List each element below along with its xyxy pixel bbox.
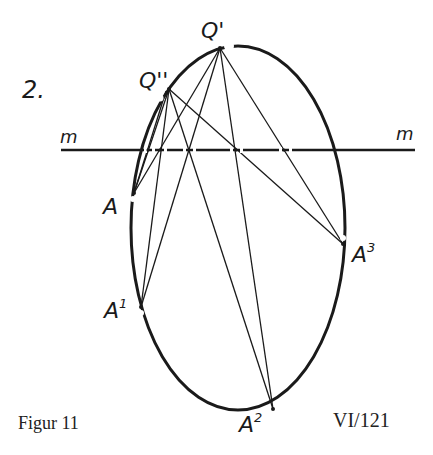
diagram-canvas: 2. Q' Q'' m m A A1 A2 A3 Figur 11 VI/121 xyxy=(0,0,433,455)
label-a1: A1 xyxy=(102,296,127,323)
figure-caption: Figur 11 xyxy=(18,413,79,433)
figure-reference: VI/121 xyxy=(333,409,390,431)
point-a2 xyxy=(271,407,275,411)
lines-from-q-prime xyxy=(134,48,343,409)
figure-number-label: 2. xyxy=(22,76,45,104)
point-a1 xyxy=(139,305,143,309)
label-a: A xyxy=(101,194,118,219)
label-a2: A2 xyxy=(237,410,262,437)
point-a xyxy=(132,191,136,195)
label-m-right: m xyxy=(396,123,414,144)
label-q-prime: Q' xyxy=(201,18,224,43)
label-m-left: m xyxy=(60,126,78,147)
label-a3: A3 xyxy=(350,240,375,267)
label-q-double-prime: Q'' xyxy=(139,68,168,93)
point-q-prime xyxy=(218,46,222,50)
point-a3 xyxy=(341,242,345,246)
